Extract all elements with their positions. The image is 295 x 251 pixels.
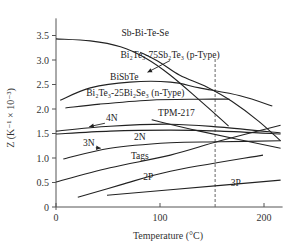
- curve-label: 2P: [143, 172, 153, 182]
- y-axis-title: Z (K⁻¹ × 10⁻³): [5, 88, 17, 148]
- y-tick-label: 2.5: [37, 79, 50, 90]
- x-tick-label: 100: [153, 212, 168, 223]
- series-line-3n: [63, 141, 280, 159]
- curve-label: BiSbTe: [110, 72, 138, 82]
- curve-label: Sb-Bi-Te-Se: [122, 28, 169, 38]
- series-line-tags: [56, 125, 281, 182]
- curve-label: Bi₂Te₃-25Bi₂Se₃ (n-Type): [86, 88, 184, 99]
- y-tick-label: 2.0: [37, 104, 50, 115]
- curve-label: 4N: [106, 113, 118, 123]
- y-tick-label: 1.5: [37, 128, 50, 139]
- series-line-bi2te3-25bi2se3-n-type: [65, 99, 229, 108]
- curve-label: 2N: [134, 132, 146, 142]
- curve-labels: Sb-Bi-Te-SeBi₂Te₃-75Sb₂Te₃ (p-Type)BiSbT…: [83, 28, 241, 189]
- y-tick-label: 1.0: [37, 153, 50, 164]
- curve-label: 3N: [83, 138, 95, 148]
- x-tick-label: 200: [257, 212, 272, 223]
- series-line-2p: [78, 155, 263, 197]
- y-tick-label: 3.0: [37, 55, 50, 66]
- curve-label: Tags: [131, 151, 149, 161]
- y-tick-label: 3.5: [37, 30, 50, 41]
- x-tick-label: 0: [54, 212, 59, 223]
- curve-label: TPM-217: [158, 108, 195, 118]
- x-axis-title: Temperature (°C): [133, 230, 203, 242]
- y-tick-label: 0: [44, 202, 49, 213]
- curve-label: Bi₂Te₃-75Sb₂Te₃ (p-Type): [120, 50, 219, 61]
- chart: 010020000.51.01.52.02.53.03.5 Sb-Bi-Te-S…: [0, 0, 295, 251]
- arrowhead-icon: [96, 146, 101, 150]
- series-line-3p: [107, 180, 281, 195]
- curve-label: 3P: [231, 178, 241, 188]
- y-tick-label: 0.5: [37, 177, 50, 188]
